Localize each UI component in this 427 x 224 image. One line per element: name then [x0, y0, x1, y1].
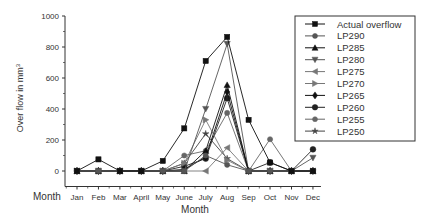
overflow-line-chart: 02004006008001000JanFebMarAprilMayJuneJu… [0, 0, 427, 224]
x-tick-label: Sep [241, 193, 256, 202]
x-tick-label: Oct [264, 193, 277, 202]
series-line [77, 98, 313, 171]
x-tick-label: June [176, 193, 194, 202]
data-marker [267, 137, 272, 142]
chart-series-lines [74, 34, 316, 174]
data-marker [96, 168, 101, 173]
legend-label: LP280 [337, 54, 364, 65]
y-tick-label: 0 [55, 167, 60, 176]
data-marker [182, 126, 187, 131]
data-marker [310, 168, 315, 173]
series-lp260 [74, 95, 316, 174]
data-marker [182, 168, 187, 173]
chart-legend: Actual overflowLP290LP285LP280LP275LP270… [295, 16, 415, 141]
legend-label: LP260 [337, 102, 364, 113]
data-marker [225, 34, 230, 39]
legend-label: LP270 [337, 78, 364, 89]
y-axis-label: Over flow in mm3 [15, 63, 25, 132]
legend-label: LP265 [337, 90, 364, 101]
data-marker [203, 117, 209, 123]
data-marker [246, 168, 251, 173]
series-lp265 [74, 88, 315, 174]
data-marker [202, 130, 208, 136]
y-tick-label: 600 [46, 74, 60, 83]
legend-label: LP290 [337, 30, 364, 41]
data-marker [310, 146, 316, 152]
data-marker [203, 153, 208, 158]
legend-label: LP250 [337, 126, 364, 137]
data-marker [224, 82, 230, 88]
series-lp290 [74, 153, 315, 174]
data-marker [246, 117, 251, 122]
data-marker [313, 33, 318, 38]
data-marker [312, 105, 318, 111]
x-tick-label: April [133, 193, 149, 202]
legend-label: LP255 [337, 114, 364, 125]
data-marker [96, 157, 101, 162]
series-line [77, 85, 313, 171]
y-tick-label: 800 [46, 43, 60, 52]
x-tick-label: Dec [306, 193, 320, 202]
x-tick-label: July [199, 193, 213, 202]
data-marker [203, 106, 209, 112]
data-marker [267, 160, 272, 165]
legend-label: LP275 [337, 66, 364, 77]
data-marker [313, 22, 318, 27]
y-axis-label-base: Over flow in mm [15, 67, 25, 132]
series-line [77, 156, 313, 172]
data-marker [139, 168, 144, 173]
chart-axes: 02004006008001000JanFebMarAprilMayJuneJu… [41, 12, 321, 202]
x-tick-label: Feb [92, 193, 106, 202]
data-marker [225, 162, 230, 167]
x-tick-label: Nov [284, 193, 298, 202]
series-line [77, 44, 313, 171]
data-marker [313, 117, 318, 122]
x-tick-label: Mar [113, 193, 127, 202]
data-marker [182, 153, 187, 158]
y-axis-label-sup: 3 [15, 63, 21, 67]
data-marker [289, 168, 294, 173]
legend-label: Actual overflow [337, 19, 402, 30]
y-tick-label: 200 [46, 136, 60, 145]
x-axis-label: Month [181, 204, 209, 215]
series-line [77, 92, 313, 171]
x-tick-label: Jan [71, 193, 84, 202]
y-tick-label: 1000 [41, 12, 59, 21]
data-marker [225, 110, 230, 115]
data-marker [203, 168, 209, 174]
x-tick-label: May [155, 193, 170, 202]
data-marker [74, 168, 79, 173]
data-marker [310, 155, 316, 161]
data-marker [117, 168, 122, 173]
data-marker [267, 168, 272, 173]
series-line [77, 148, 313, 171]
data-marker [160, 168, 165, 173]
legend-label: LP285 [337, 42, 364, 53]
series-lp250 [74, 130, 316, 173]
x-tick-label: Aug [220, 193, 234, 202]
data-marker [203, 58, 208, 63]
y-tick-label: 400 [46, 105, 60, 114]
data-marker [160, 158, 165, 163]
x-axis-start-label: Month [33, 191, 61, 202]
